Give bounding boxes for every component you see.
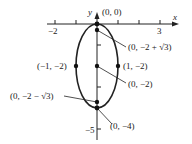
tick-label-neg2: −2 bbox=[48, 26, 58, 36]
y-axis-arrow-icon bbox=[95, 12, 100, 19]
point-origin bbox=[95, 22, 100, 27]
x-axis-arrow-icon bbox=[172, 22, 179, 27]
label-left-vertex: (−1, −2) bbox=[37, 61, 67, 71]
label-right-vertex: (1, −2) bbox=[123, 61, 148, 71]
x-axis-label: x bbox=[172, 12, 177, 22]
label-focus-top: (0, −2 + √3) bbox=[128, 42, 172, 52]
tick-label-3: 3 bbox=[157, 26, 162, 36]
y-axis-label: y bbox=[87, 7, 92, 17]
label-origin: (0, 0) bbox=[102, 7, 122, 17]
point-bottom-vertex bbox=[95, 106, 100, 111]
ellipse-diagram: y x −2 3 −5 (0, 0) (0, −2 + √3) (−1, −2)… bbox=[0, 0, 192, 144]
point-focus-bottom bbox=[95, 100, 99, 104]
label-center: (0, −2) bbox=[128, 79, 153, 89]
point-focus-top bbox=[95, 28, 99, 32]
label-bottom-vertex: (0, −4) bbox=[110, 121, 135, 131]
point-left-vertex bbox=[74, 64, 78, 68]
label-focus-bottom: (0, −2 − √3) bbox=[10, 91, 54, 101]
point-right-vertex bbox=[116, 64, 120, 68]
tick-label-neg5: −5 bbox=[85, 125, 95, 135]
point-center bbox=[95, 64, 99, 68]
